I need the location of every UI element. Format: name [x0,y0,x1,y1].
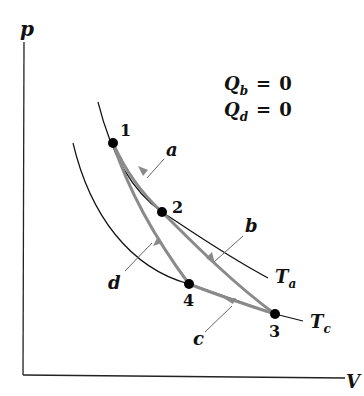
isotherm-label-tc: Tc [310,311,331,336]
process-label-a: a [166,139,178,160]
y-axis [23,42,24,375]
state-point-4 [184,279,194,289]
point-label-3: 3 [269,322,280,341]
point-label-4: 4 [183,291,194,310]
x-axis-label: V [346,371,362,392]
process-b-path [162,212,275,314]
arrow-c-icon [225,298,236,304]
leader-a [147,159,164,178]
leader-c [205,306,232,332]
state-point-3 [270,309,280,319]
process-label-d: d [108,272,121,293]
arrow-a-icon [138,166,148,176]
process-label-b: b [245,215,258,236]
isotherm-label-ta: Ta [275,266,296,291]
condition-qd: Qd=0 [224,99,292,124]
process-label-c: c [193,328,204,349]
pv-diagram: p V 1 2 3 4 a b c d Ta Tc Qb=0 Qd=0 [0,0,364,396]
diagram-canvas: p V 1 2 3 4 a b c d Ta Tc Qb=0 Qd=0 [0,0,364,396]
condition-qb: Qb=0 [224,73,292,98]
arrow-b-icon [206,252,215,264]
state-point-2 [157,207,167,217]
leader-d [125,243,152,271]
state-point-1 [108,138,118,148]
point-label-2: 2 [172,198,183,217]
point-label-1: 1 [120,121,131,140]
x-axis [23,375,345,378]
y-axis-label: p [20,17,34,41]
